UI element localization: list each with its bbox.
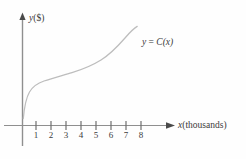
x-tick-label-8: 8: [134, 131, 148, 140]
y-axis-label: y($): [29, 14, 44, 24]
x-tick-label-2: 2: [44, 131, 58, 140]
x-tick-label-7: 7: [119, 131, 133, 140]
x-axis-label: x(thousands): [178, 121, 227, 131]
x-tick-label-5: 5: [89, 131, 103, 140]
x-tick-label-4: 4: [74, 131, 88, 140]
curve-equation-label: y = C(x): [142, 38, 173, 48]
x-tick-label-6: 6: [104, 131, 118, 140]
x-axis-arrowhead: [166, 122, 175, 129]
cost-function-graph-figure: y($) x(thousands) y = C(x) 1 2 3 4 5 6 7…: [0, 0, 246, 159]
cost-curve-path: [23, 26, 137, 118]
x-tick-label-1: 1: [29, 131, 43, 140]
y-axis-unit: ($): [33, 13, 44, 23]
curve-rhs: C(x): [156, 37, 173, 47]
y-axis-arrowhead: [19, 13, 25, 21]
curve-equals: =: [146, 37, 156, 47]
x-tick-label-3: 3: [59, 131, 73, 140]
x-axis-unit: (thousands): [182, 120, 226, 130]
